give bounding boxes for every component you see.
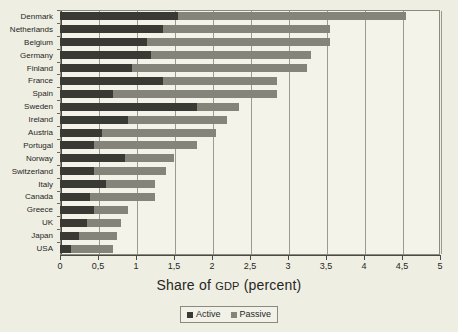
bar-row (60, 38, 440, 46)
x-axis-title: Share of GDP (percent) (0, 277, 458, 295)
x-axis-tick-label: 1 (133, 261, 138, 272)
bar-row (60, 167, 440, 175)
bar-segment-active (60, 232, 79, 240)
bar-segment-active (60, 193, 90, 201)
bar-row (60, 154, 440, 162)
y-axis-label: Germany (20, 51, 53, 60)
bar-segment-active (60, 90, 113, 98)
bar-segment-passive (87, 219, 121, 227)
bar-segment-active (60, 116, 128, 124)
bar-segment-active (60, 167, 94, 175)
bar-row (60, 103, 440, 111)
bar-segment-passive (94, 167, 166, 175)
x-axis-tick-label: 3 (285, 261, 290, 272)
bar-series-container (60, 10, 440, 255)
stacked-bar (60, 51, 311, 59)
bar-segment-active (60, 180, 106, 188)
bar-row (60, 90, 440, 98)
stacked-bar (60, 64, 307, 72)
stacked-bar (60, 129, 216, 137)
y-axis-label: Finland (27, 64, 53, 73)
bar-segment-active (60, 245, 71, 253)
x-axis-tick (136, 256, 137, 260)
bar-row (60, 180, 440, 188)
bar-segment-active (60, 64, 132, 72)
x-axis-tick (98, 256, 99, 260)
bar-segment-passive (102, 129, 216, 137)
bar-segment-passive (90, 193, 155, 201)
bar-segment-active (60, 51, 151, 59)
bar-segment-passive (71, 245, 113, 253)
bar-segment-active (60, 77, 163, 85)
x-axis-tick-label: 1,5 (168, 261, 181, 272)
chart-legend: ActivePassive (180, 306, 278, 323)
y-axis-label: Switzerland (12, 167, 53, 176)
bar-row (60, 51, 440, 59)
x-axis-tick (326, 256, 327, 260)
y-axis-labels: DenmarkNetherlandsBelgiumGermanyFinlandF… (0, 10, 57, 255)
y-axis-label: Denmark (21, 12, 53, 21)
y-axis-label: Japan (31, 231, 53, 240)
bar-row (60, 219, 440, 227)
x-axis-tick-label: 4 (361, 261, 366, 272)
x-axis-tick (440, 256, 441, 260)
bar-segment-active (60, 219, 87, 227)
bar-segment-active (60, 154, 125, 162)
bar-segment-active (60, 141, 94, 149)
x-axis-tick (212, 256, 213, 260)
y-axis-label: France (28, 76, 53, 85)
y-axis-label: Austria (28, 128, 53, 137)
bar-segment-passive (163, 77, 277, 85)
bar-row (60, 141, 440, 149)
bar-row (60, 25, 440, 33)
x-axis-tick-label: 2,5 (244, 261, 257, 272)
stacked-bar (60, 116, 227, 124)
x-axis-tick-label: 3,5 (320, 261, 333, 272)
gridline-5 (441, 11, 442, 254)
bar-row (60, 129, 440, 137)
y-axis-label: Belgium (24, 38, 53, 47)
stacked-bar (60, 103, 239, 111)
y-axis-label: Portugal (23, 141, 53, 150)
axis-title-after: (percent) (240, 277, 302, 293)
stacked-bar (60, 77, 277, 85)
bar-row (60, 12, 440, 20)
x-axis-tick-label: 2 (209, 261, 214, 272)
bar-segment-passive (163, 25, 330, 33)
bar-segment-active (60, 12, 178, 20)
bar-row (60, 64, 440, 72)
bar-segment-passive (79, 232, 117, 240)
stacked-bar (60, 180, 155, 188)
bar-segment-passive (147, 38, 329, 46)
axis-title-gdp: GDP (215, 280, 239, 292)
bar-segment-passive (128, 116, 227, 124)
bar-row (60, 206, 440, 214)
bar-segment-active (60, 129, 102, 137)
x-axis-tick-label: 0 (57, 261, 62, 272)
chart-root: DenmarkNetherlandsBelgiumGermanyFinlandF… (0, 0, 458, 332)
y-axis-label: Norway (26, 154, 53, 163)
x-axis-tick (250, 256, 251, 260)
legend-label: Passive (240, 309, 272, 320)
bar-row (60, 232, 440, 240)
stacked-bar (60, 193, 155, 201)
y-axis-label: Greece (27, 205, 53, 214)
bar-segment-active (60, 206, 94, 214)
legend-entry: Active (187, 309, 221, 320)
y-axis-label: Sweden (24, 102, 53, 111)
y-axis-label: Italy (38, 180, 53, 189)
stacked-bar (60, 38, 330, 46)
bar-row (60, 245, 440, 253)
stacked-bar (60, 141, 197, 149)
bar-segment-active (60, 25, 163, 33)
bar-segment-passive (178, 12, 406, 20)
y-axis-label: Canada (25, 192, 53, 201)
bar-segment-passive (151, 51, 311, 59)
stacked-bar (60, 154, 174, 162)
legend-label: Active (196, 309, 221, 320)
x-axis-tick (288, 256, 289, 260)
x-axis-tick-label: 0,5 (92, 261, 105, 272)
stacked-bar (60, 219, 121, 227)
y-axis-label: USA (37, 244, 53, 253)
bar-segment-active (60, 38, 147, 46)
